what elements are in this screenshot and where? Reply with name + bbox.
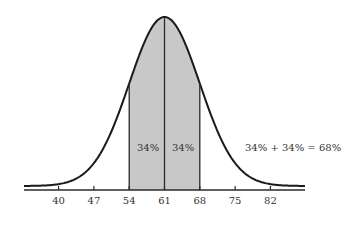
- tick-label: 54: [123, 195, 136, 206]
- tick-label: 40: [52, 195, 65, 206]
- tick-label: 68: [193, 195, 206, 206]
- x-axis-ticks: 40475461687582: [52, 186, 277, 206]
- summary-annotation: 34% + 34% = 68%: [245, 142, 341, 153]
- left-region-label: 34%: [137, 142, 159, 153]
- right-region-label: 34%: [172, 142, 194, 153]
- tick-label: 61: [158, 195, 171, 206]
- tick-label: 82: [264, 195, 277, 206]
- normal-distribution-chart: 40475461687582 34% 34% 34% + 34% = 68%: [0, 0, 354, 227]
- tick-label: 47: [88, 195, 101, 206]
- tick-label: 75: [229, 195, 242, 206]
